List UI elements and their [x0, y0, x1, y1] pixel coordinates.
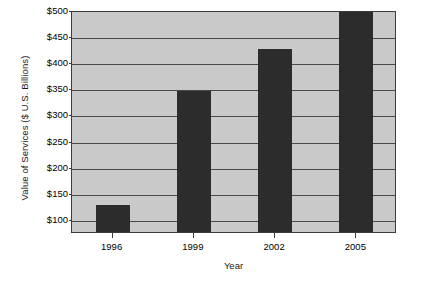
y-axis-tick-label: $400 [26, 58, 68, 68]
y-axis-tick-label: $200 [26, 163, 68, 173]
y-axis-tick-labels: $100$150$200$250$300$350$400$450$500 [26, 0, 68, 284]
y-axis-tick-label: $250 [26, 137, 68, 147]
x-axis-tick-label: 2002 [244, 241, 304, 253]
plot-area [71, 11, 396, 233]
y-axis-tick-label: $300 [26, 110, 68, 120]
y-axis-tick-label: $350 [26, 84, 68, 94]
y-axis-tick-label: $150 [26, 189, 68, 199]
x-axis-tick-label: 2005 [325, 241, 385, 253]
x-axis-tick-label: 1996 [82, 241, 142, 253]
x-axis-tick-mark [193, 233, 194, 238]
bar [258, 49, 292, 233]
y-axis-tick-label: $100 [26, 215, 68, 225]
y-axis-tick-label: $450 [26, 32, 68, 42]
bar [96, 205, 130, 233]
bar [339, 12, 373, 233]
x-axis-tick-labels: 1996199920022005 [71, 241, 396, 255]
x-axis-tick-mark [355, 233, 356, 238]
x-axis-tick-marks [71, 233, 396, 239]
x-axis-tick-label: 1999 [163, 241, 223, 253]
bar [177, 91, 211, 233]
y-axis-tick-label: $500 [26, 6, 68, 16]
bar-chart: Value of Services ($ U.S. Billions) $100… [0, 0, 422, 284]
x-axis-tick-mark [274, 233, 275, 238]
x-axis-tick-mark [112, 233, 113, 238]
x-axis-title: Year [71, 260, 396, 272]
